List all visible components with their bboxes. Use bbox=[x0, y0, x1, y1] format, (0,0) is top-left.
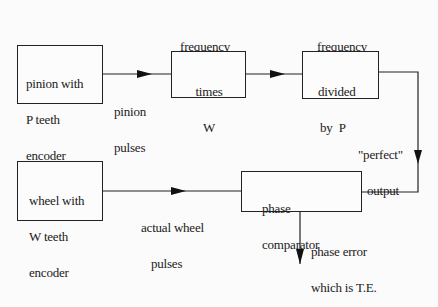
label-line: pinion bbox=[114, 106, 146, 118]
frequency-multiplier-label: times W bbox=[189, 62, 229, 158]
label-line: actual wheel bbox=[141, 222, 204, 234]
label-line: pulses bbox=[141, 258, 204, 270]
edge-actual-wheel-pulses bbox=[102, 187, 241, 195]
label-line: wheel with bbox=[29, 195, 84, 207]
label-line: pulses bbox=[114, 142, 146, 154]
label-line: P teeth bbox=[26, 114, 83, 126]
frequency-multiplier-box: times W bbox=[171, 51, 246, 98]
label-line: output bbox=[358, 185, 403, 197]
frequency-divider-label: divided by P bbox=[318, 62, 356, 158]
perfect-output-label: "perfect" output bbox=[358, 125, 403, 209]
arrowhead-icon bbox=[171, 187, 186, 195]
phase-error-label: phase error which is T.E. bbox=[311, 222, 377, 306]
label-line: times bbox=[189, 86, 229, 98]
label-line: encoder bbox=[29, 267, 84, 279]
pinion-pulses-label: pinion pulses bbox=[114, 82, 146, 166]
label-line: divided bbox=[318, 86, 356, 98]
wheel-encoder-box: wheel with W teeth encoder bbox=[17, 161, 103, 221]
label-line: phase error bbox=[311, 246, 377, 258]
label-line: W teeth bbox=[29, 231, 84, 243]
arrowhead-icon bbox=[414, 150, 422, 164]
label-line: phase bbox=[262, 203, 319, 215]
label-line: by P bbox=[318, 122, 356, 134]
phase-comparator-box: phase comparator bbox=[241, 171, 362, 212]
wheel-encoder-label: wheel with W teeth encoder bbox=[29, 171, 84, 303]
pinion-encoder-box: pinion with P teeth encoder bbox=[17, 45, 103, 104]
edge-pinion-pulses bbox=[102, 70, 171, 78]
label-line: "perfect" bbox=[358, 149, 403, 161]
actual-wheel-pulses-label: actual wheel pulses bbox=[141, 198, 204, 282]
arrowhead-icon bbox=[270, 70, 285, 78]
label-line: pinion with bbox=[26, 78, 83, 90]
edge-mult-to-div bbox=[245, 70, 302, 78]
label-line: W bbox=[189, 122, 229, 134]
label-line: which is T.E. bbox=[311, 282, 377, 294]
arrowhead-icon bbox=[137, 70, 152, 78]
frequency-divider-box: divided by P bbox=[302, 51, 379, 99]
